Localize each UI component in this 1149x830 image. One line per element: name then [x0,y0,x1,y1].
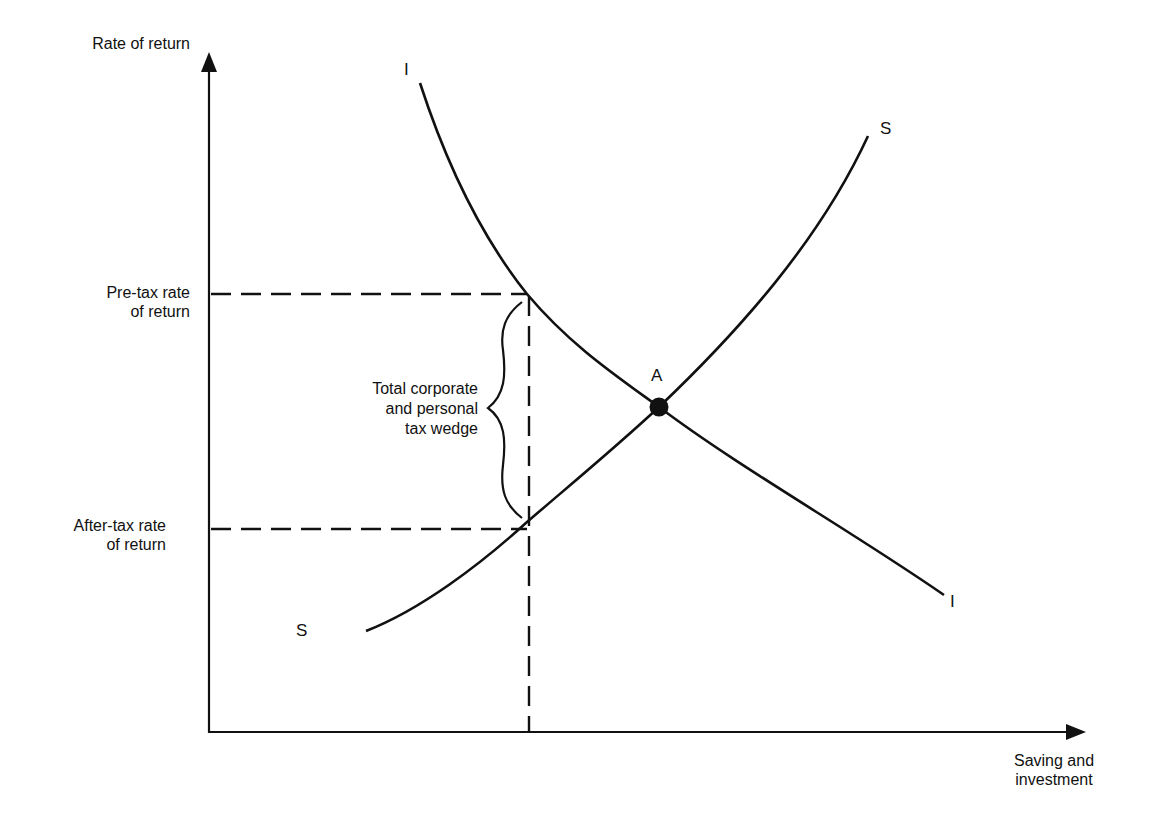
investment-curve-label-top: I [404,60,409,80]
pre-tax-rate-label-line1: Pre-tax rate [40,283,190,302]
after-tax-rate-label-line2: of return [16,535,166,554]
tax-wedge-label-line2: and personal [318,399,478,419]
saving-curve-label-top: S [880,119,891,139]
y-axis-arrow-icon [201,52,217,72]
after-tax-rate-label: After-tax rate of return [16,516,166,554]
pre-tax-rate-label-line2: of return [40,302,190,321]
tax-wedge-label: Total corporate and personal tax wedge [318,379,478,439]
equilibrium-label: A [651,366,662,386]
x-axis-label-line2: investment [1004,770,1104,789]
x-axis-label-line1: Saving and [1004,751,1104,770]
after-tax-rate-label-line1: After-tax rate [16,516,166,535]
investment-curve [420,83,944,595]
tax-wedge-label-line1: Total corporate [318,379,478,399]
equilibrium-point-a [650,398,669,417]
tax-wedge-brace [488,302,522,518]
tax-wedge-label-line3: tax wedge [318,419,478,439]
y-axis-label: Rate of return [40,34,190,53]
supply-demand-diagram [0,0,1149,830]
x-axis-label: Saving and investment [1004,751,1104,789]
pre-tax-rate-label: Pre-tax rate of return [40,283,190,321]
saving-curve-label-bottom: S [296,621,307,641]
x-axis-arrow-icon [1066,724,1086,740]
investment-curve-label-bottom: I [950,592,955,612]
